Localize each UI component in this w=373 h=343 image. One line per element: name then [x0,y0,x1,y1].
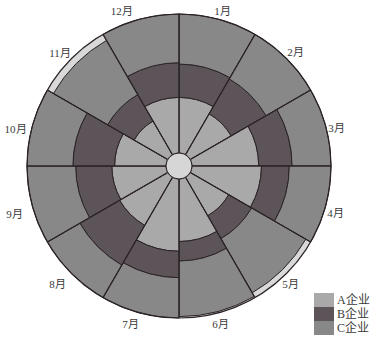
legend-label-b: B企业 [337,307,369,321]
center-hole [166,153,192,179]
month-label: 10月 [5,123,27,135]
month-label: 2月 [287,46,304,58]
legend-item-b: B企业 [314,307,373,321]
month-label: 12月 [111,5,133,17]
month-label: 8月 [49,278,66,290]
legend-swatch-a [314,293,334,307]
month-label: 3月 [328,122,345,134]
legend-item-c: C企业 [314,321,373,335]
month-label: 9月 [6,208,23,220]
month-label: 6月 [212,318,229,330]
month-label: 1月 [214,5,231,17]
month-label: 7月 [122,318,139,330]
legend-label-c: C企业 [337,321,369,335]
legend-label-a: A企业 [337,293,370,307]
legend-swatch-b [314,307,334,321]
month-label: 11月 [49,47,71,59]
polar-stacked-bar-chart: 1月2月3月4月5月6月7月8月9月10月11月12月 [0,0,373,343]
month-label: 5月 [282,278,299,290]
chart-center-hub [166,153,192,179]
legend: A企业 B企业 C企业 [314,293,373,335]
month-label: 4月 [327,207,344,219]
legend-swatch-c [314,321,334,335]
legend-item-a: A企业 [314,293,373,307]
